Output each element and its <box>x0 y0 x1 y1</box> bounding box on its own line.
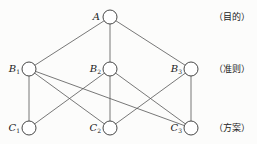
edge-A-B1 <box>29 17 110 69</box>
node-label-C2: C2 <box>90 122 102 134</box>
diagram-canvas: AB1B2B3C1C2C3 （目的）（准则）（方案） <box>0 0 257 144</box>
level-label-0: （目的） <box>214 11 250 22</box>
level-label-2: （方案） <box>214 122 250 133</box>
node-B3 <box>184 62 198 76</box>
level-labels: （目的）（准则）（方案） <box>214 11 250 133</box>
node-C3 <box>184 121 198 135</box>
node-A <box>103 10 117 24</box>
level-label-1: （准则） <box>214 63 250 74</box>
nodes: AB1B2B3C1C2C3 <box>8 10 198 135</box>
hierarchy-diagram: AB1B2B3C1C2C3 （目的）（准则）（方案） <box>0 0 257 144</box>
node-label-B1: B1 <box>8 63 20 75</box>
node-label-C1: C1 <box>9 122 20 134</box>
node-C2 <box>103 121 117 135</box>
edge-A-B3 <box>110 17 191 69</box>
node-label-A: A <box>92 11 100 22</box>
node-B2 <box>103 62 117 76</box>
node-C1 <box>22 121 36 135</box>
node-label-B2: B2 <box>89 63 101 75</box>
node-label-B3: B3 <box>170 63 182 75</box>
node-B1 <box>22 62 36 76</box>
